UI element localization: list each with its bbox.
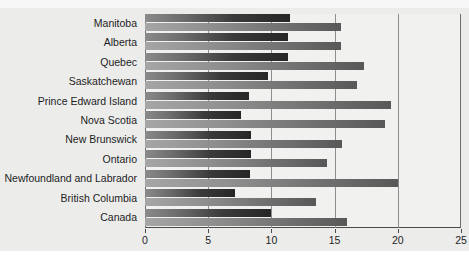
chart-container: ManitobaAlbertaQuebecSaskatchewanPrince …: [0, 0, 469, 259]
bar-series-1: [145, 33, 288, 41]
bar-series-2: [145, 23, 341, 31]
bar-row: [145, 189, 461, 208]
tick-label-0: 0: [142, 234, 148, 246]
bar-series-2: [145, 42, 341, 50]
bar-row: [145, 14, 461, 33]
bar-series-1: [145, 53, 288, 61]
tick-mark-15: [335, 229, 336, 233]
category-label: Newfoundland and Labrador: [4, 173, 137, 184]
category-label: New Brunswick: [65, 134, 137, 145]
category-label: Alberta: [104, 37, 137, 48]
bar-series-2: [145, 140, 342, 148]
bar-row: [145, 209, 461, 228]
bar-row: [145, 111, 461, 130]
category-label: Manitoba: [94, 18, 137, 29]
category-label: Saskatchewan: [69, 76, 137, 87]
tick-mark-20: [398, 229, 399, 233]
tick-label-20: 20: [392, 234, 404, 246]
bar-row: [145, 131, 461, 150]
bar-series-2: [145, 159, 327, 167]
bar-row: [145, 92, 461, 111]
category-axis-labels: ManitobaAlbertaQuebecSaskatchewanPrince …: [0, 14, 141, 228]
bar-series-1: [145, 14, 290, 22]
bar-rows: [145, 14, 461, 228]
bar-series-1: [145, 150, 251, 158]
bar-series-1: [145, 131, 251, 139]
value-axis: 0510152025: [145, 229, 461, 253]
bar-row: [145, 72, 461, 91]
tick-label-15: 15: [329, 234, 341, 246]
bar-series-1: [145, 189, 235, 197]
bar-series-2: [145, 179, 398, 187]
plot-area: [145, 14, 461, 228]
bar-row: [145, 170, 461, 189]
category-label: British Columbia: [61, 193, 137, 204]
bar-series-2: [145, 218, 347, 226]
category-label: Nova Scotia: [80, 115, 137, 126]
bar-series-2: [145, 101, 391, 109]
bar-series-2: [145, 62, 364, 70]
bar-series-1: [145, 111, 241, 119]
tick-mark-25: [461, 229, 462, 233]
category-label: Quebec: [100, 57, 137, 68]
bar-series-1: [145, 72, 268, 80]
tick-label-25: 25: [455, 234, 467, 246]
tick-label-10: 10: [266, 234, 278, 246]
bar-series-2: [145, 198, 316, 206]
tick-label-5: 5: [205, 234, 211, 246]
category-label: Prince Edward Island: [38, 96, 137, 107]
bar-series-1: [145, 209, 271, 217]
bar-series-1: [145, 170, 250, 178]
bar-series-2: [145, 120, 385, 128]
tick-mark-10: [271, 229, 272, 233]
bar-row: [145, 53, 461, 72]
category-label: Canada: [100, 212, 137, 223]
bar-series-1: [145, 92, 249, 100]
tick-mark-0: [145, 229, 146, 233]
bar-row: [145, 150, 461, 169]
tick-mark-5: [208, 229, 209, 233]
bar-series-2: [145, 81, 357, 89]
category-label: Ontario: [103, 154, 137, 165]
bar-row: [145, 33, 461, 52]
